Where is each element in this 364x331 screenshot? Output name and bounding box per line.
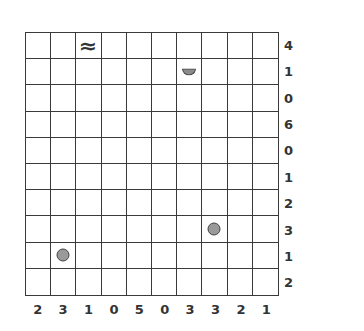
grid-cell-r9-c0[interactable] xyxy=(26,269,51,295)
grid-cell-r1-c9[interactable] xyxy=(253,59,278,85)
grid-cell-r6-c6[interactable] xyxy=(177,190,202,216)
grid-cell-r1-c7[interactable] xyxy=(202,59,227,85)
grid-cell-r1-c5[interactable] xyxy=(152,59,177,85)
grid-cell-r3-c4[interactable] xyxy=(127,112,152,138)
grid-cell-r7-c8[interactable] xyxy=(228,216,253,242)
grid-cell-r6-c9[interactable] xyxy=(253,190,278,216)
grid-cell-r2-c5[interactable] xyxy=(152,85,177,111)
grid-cell-r4-c7[interactable] xyxy=(202,138,227,164)
grid-cell-r3-c0[interactable] xyxy=(26,112,51,138)
grid-cell-r1-c3[interactable] xyxy=(102,59,127,85)
grid-cell-r2-c3[interactable] xyxy=(102,85,127,111)
grid-cell-r0-c2[interactable]: ≈ xyxy=(76,33,101,59)
grid-cell-r8-c2[interactable] xyxy=(76,243,101,269)
grid-cell-r2-c9[interactable] xyxy=(253,85,278,111)
grid-cell-r9-c6[interactable] xyxy=(177,269,202,295)
grid-cell-r8-c6[interactable] xyxy=(177,243,202,269)
grid-cell-r9-c2[interactable] xyxy=(76,269,101,295)
grid-cell-r1-c0[interactable] xyxy=(26,59,51,85)
grid-cell-r4-c0[interactable] xyxy=(26,138,51,164)
grid-cell-r5-c2[interactable] xyxy=(76,164,101,190)
grid-cell-r0-c4[interactable] xyxy=(127,33,152,59)
grid-cell-r9-c7[interactable] xyxy=(202,269,227,295)
grid-cell-r8-c0[interactable] xyxy=(26,243,51,269)
grid-cell-r6-c1[interactable] xyxy=(51,190,76,216)
grid-cell-r4-c2[interactable] xyxy=(76,138,101,164)
grid-cell-r3-c3[interactable] xyxy=(102,112,127,138)
grid-cell-r2-c0[interactable] xyxy=(26,85,51,111)
grid-cell-r8-c5[interactable] xyxy=(152,243,177,269)
grid-cell-r0-c0[interactable] xyxy=(26,33,51,59)
grid-cell-r0-c6[interactable] xyxy=(177,33,202,59)
grid-cell-r0-c3[interactable] xyxy=(102,33,127,59)
grid-cell-r3-c6[interactable] xyxy=(177,112,202,138)
grid-cell-r1-c8[interactable] xyxy=(228,59,253,85)
grid-cell-r2-c6[interactable] xyxy=(177,85,202,111)
grid-cell-r5-c7[interactable] xyxy=(202,164,227,190)
grid-cell-r4-c3[interactable] xyxy=(102,138,127,164)
grid-cell-r4-c9[interactable] xyxy=(253,138,278,164)
grid-cell-r9-c9[interactable] xyxy=(253,269,278,295)
grid-cell-r5-c8[interactable] xyxy=(228,164,253,190)
grid-cell-r5-c6[interactable] xyxy=(177,164,202,190)
grid-cell-r5-c3[interactable] xyxy=(102,164,127,190)
grid-cell-r4-c8[interactable] xyxy=(228,138,253,164)
grid-cell-r2-c1[interactable] xyxy=(51,85,76,111)
grid-cell-r2-c7[interactable] xyxy=(202,85,227,111)
grid-cell-r8-c3[interactable] xyxy=(102,243,127,269)
grid-cell-r3-c8[interactable] xyxy=(228,112,253,138)
grid-cell-r1-c6[interactable] xyxy=(177,59,202,85)
grid-cell-r8-c7[interactable] xyxy=(202,243,227,269)
grid-cell-r3-c9[interactable] xyxy=(253,112,278,138)
grid-cell-r8-c1[interactable] xyxy=(51,243,76,269)
grid-cell-r7-c0[interactable] xyxy=(26,216,51,242)
grid-cell-r1-c2[interactable] xyxy=(76,59,101,85)
grid-cell-r4-c1[interactable] xyxy=(51,138,76,164)
grid-cell-r8-c9[interactable] xyxy=(253,243,278,269)
grid-cell-r6-c8[interactable] xyxy=(228,190,253,216)
grid-cell-r4-c5[interactable] xyxy=(152,138,177,164)
grid-cell-r0-c1[interactable] xyxy=(51,33,76,59)
grid-cell-r8-c8[interactable] xyxy=(228,243,253,269)
grid-cell-r9-c4[interactable] xyxy=(127,269,152,295)
grid-cell-r5-c0[interactable] xyxy=(26,164,51,190)
grid-cell-r1-c4[interactable] xyxy=(127,59,152,85)
grid-cell-r6-c3[interactable] xyxy=(102,190,127,216)
grid-cell-r7-c7[interactable] xyxy=(202,216,227,242)
grid-cell-r4-c6[interactable] xyxy=(177,138,202,164)
grid-cell-r6-c4[interactable] xyxy=(127,190,152,216)
grid-cell-r7-c4[interactable] xyxy=(127,216,152,242)
grid-cell-r5-c1[interactable] xyxy=(51,164,76,190)
grid-cell-r9-c8[interactable] xyxy=(228,269,253,295)
grid-cell-r6-c5[interactable] xyxy=(152,190,177,216)
grid-cell-r1-c1[interactable] xyxy=(51,59,76,85)
grid-cell-r4-c4[interactable] xyxy=(127,138,152,164)
grid-cell-r7-c5[interactable] xyxy=(152,216,177,242)
grid-cell-r3-c1[interactable] xyxy=(51,112,76,138)
grid-cell-r6-c7[interactable] xyxy=(202,190,227,216)
grid-cell-r7-c3[interactable] xyxy=(102,216,127,242)
grid-cell-r9-c1[interactable] xyxy=(51,269,76,295)
grid-cell-r3-c5[interactable] xyxy=(152,112,177,138)
grid-cell-r5-c5[interactable] xyxy=(152,164,177,190)
grid-cell-r0-c5[interactable] xyxy=(152,33,177,59)
grid-cell-r0-c8[interactable] xyxy=(228,33,253,59)
grid-cell-r3-c7[interactable] xyxy=(202,112,227,138)
grid-cell-r0-c9[interactable] xyxy=(253,33,278,59)
grid-cell-r2-c4[interactable] xyxy=(127,85,152,111)
grid-cell-r6-c0[interactable] xyxy=(26,190,51,216)
grid-cell-r7-c6[interactable] xyxy=(177,216,202,242)
grid-cell-r2-c8[interactable] xyxy=(228,85,253,111)
grid-cell-r5-c4[interactable] xyxy=(127,164,152,190)
grid-cell-r2-c2[interactable] xyxy=(76,85,101,111)
grid-cell-r5-c9[interactable] xyxy=(253,164,278,190)
grid-cell-r9-c5[interactable] xyxy=(152,269,177,295)
grid-cell-r0-c7[interactable] xyxy=(202,33,227,59)
grid-cell-r7-c9[interactable] xyxy=(253,216,278,242)
grid-cell-r9-c3[interactable] xyxy=(102,269,127,295)
grid-cell-r8-c4[interactable] xyxy=(127,243,152,269)
grid-cell-r3-c2[interactable] xyxy=(76,112,101,138)
grid-cell-r7-c2[interactable] xyxy=(76,216,101,242)
grid-cell-r6-c2[interactable] xyxy=(76,190,101,216)
grid-cell-r7-c1[interactable] xyxy=(51,216,76,242)
